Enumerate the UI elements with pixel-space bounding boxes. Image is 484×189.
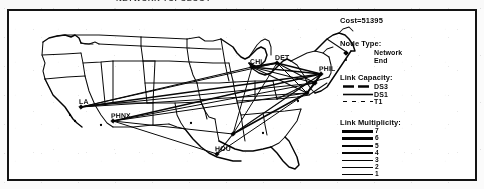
legend-multiplicity-row: 2 bbox=[340, 164, 401, 171]
ds1-line-icon bbox=[342, 92, 374, 97]
diamond-marker bbox=[343, 50, 349, 56]
ds3-line-icon bbox=[342, 84, 374, 89]
dot-marker bbox=[345, 59, 347, 61]
legend-item-ds1-label: DS1 bbox=[374, 91, 388, 98]
multiplicity-rule-key bbox=[340, 145, 374, 147]
network-link bbox=[113, 74, 321, 121]
ds3-line-key bbox=[340, 84, 374, 89]
figure-caption: NETWORK TOPOLOGY bbox=[116, 0, 211, 3]
end-node bbox=[100, 124, 102, 126]
legend-item-ds3: DS3 bbox=[340, 83, 393, 90]
multiplicity-rule-icon bbox=[342, 145, 373, 147]
city-label-la: LA bbox=[79, 98, 89, 105]
legend-multiplicity-row: 4 bbox=[340, 150, 401, 157]
legend-item-network: Network bbox=[340, 49, 402, 56]
scanned-page: NETWORK TOPOLOGY bbox=[0, 0, 484, 189]
legend-node-type: Node Type: Network End bbox=[340, 39, 402, 64]
t1-line-icon bbox=[342, 99, 374, 104]
city-label-phnx: PHNX bbox=[111, 112, 131, 119]
legend-multiplicity-row: 7 bbox=[340, 128, 401, 135]
t1-line-key bbox=[340, 99, 374, 104]
multiplicity-rule-icon bbox=[342, 167, 373, 168]
network-overlay bbox=[9, 11, 479, 183]
caption-strip: NETWORK TOPOLOGY bbox=[0, 0, 484, 9]
legend-item-ds1: DS1 bbox=[340, 91, 393, 98]
legend-item-network-label: Network bbox=[374, 49, 402, 56]
legend-link-capacity-title: Link Capacity: bbox=[340, 73, 393, 82]
network-node bbox=[79, 105, 84, 110]
multiplicity-rule-key bbox=[340, 167, 374, 168]
network-link bbox=[233, 67, 252, 134]
end-node bbox=[74, 120, 76, 122]
legend-item-end: End bbox=[340, 57, 402, 64]
legend-link-capacity: Link Capacity: DS3 DS1 bbox=[340, 73, 393, 105]
multiplicity-rule-key bbox=[340, 160, 374, 162]
end-node bbox=[69, 114, 71, 116]
multiplicity-rule-key bbox=[340, 174, 374, 175]
legend-multiplicity-rows: 7654321 bbox=[340, 128, 401, 178]
legend-multiplicity-row: 5 bbox=[340, 142, 401, 149]
dot-marker-key bbox=[340, 59, 374, 61]
multiplicity-rule-icon bbox=[342, 130, 373, 133]
multiplicity-rule-key bbox=[340, 152, 374, 154]
network-node bbox=[111, 119, 116, 124]
legend-item-end-label: End bbox=[374, 57, 388, 64]
city-label-hou: HOU bbox=[215, 145, 231, 152]
legend-link-multiplicity: Link Multiplicity: 7654321 bbox=[340, 118, 401, 178]
legend-node-type-title: Node Type: bbox=[340, 39, 402, 48]
city-label-det: DET bbox=[275, 54, 289, 61]
link-layer bbox=[81, 63, 321, 154]
legend-multiplicity-row: 1 bbox=[340, 171, 401, 178]
end-node bbox=[297, 100, 299, 102]
network-link bbox=[113, 121, 217, 154]
network-link bbox=[113, 121, 233, 134]
end-node bbox=[190, 122, 192, 124]
figure-frame: LAPHNXHOUCHIDETPHIL Cost=51395 Node Type… bbox=[7, 9, 477, 181]
multiplicity-rule-icon bbox=[342, 160, 373, 162]
legend-link-multiplicity-title: Link Multiplicity: bbox=[340, 118, 401, 127]
multiplicity-rule-key bbox=[340, 130, 374, 133]
legend-item-ds3-label: DS3 bbox=[374, 83, 388, 90]
network-link bbox=[81, 63, 277, 107]
legend-item-t1: T1 bbox=[340, 98, 393, 105]
legend-multiplicity-value: 1 bbox=[375, 171, 379, 178]
multiplicity-rule-icon bbox=[342, 137, 373, 140]
multiplicity-rule-key bbox=[340, 137, 374, 140]
cost-label: Cost=51395 bbox=[340, 16, 383, 25]
legend-multiplicity-row: 6 bbox=[340, 135, 401, 142]
network-link bbox=[233, 74, 321, 134]
network-link bbox=[113, 93, 307, 121]
legend-multiplicity-row: 3 bbox=[340, 157, 401, 164]
city-label-phil: PHIL bbox=[319, 65, 335, 72]
network-link bbox=[233, 93, 307, 134]
legend-item-t1-label: T1 bbox=[374, 98, 382, 105]
multiplicity-rule-icon bbox=[342, 174, 373, 175]
multiplicity-rule-icon bbox=[342, 152, 373, 154]
end-node bbox=[262, 132, 264, 134]
diamond-marker-key bbox=[340, 51, 374, 55]
city-label-chi: CHI bbox=[250, 58, 262, 65]
figure-inner: LAPHNXHOUCHIDETPHIL Cost=51395 Node Type… bbox=[9, 11, 475, 179]
ds1-line-key bbox=[340, 92, 374, 97]
